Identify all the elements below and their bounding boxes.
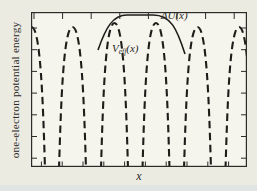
veff-curve-label: Veff(x) — [112, 42, 138, 56]
figure-page: one-electron potential energy ΔU(x) Veff… — [0, 0, 257, 191]
y-axis-label-text: one-electron potential energy — [9, 21, 21, 158]
delta-u-curve-label: ΔU(x) — [161, 9, 188, 21]
veff-dashed-peak — [226, 27, 248, 167]
plot-svg — [31, 12, 247, 167]
veff-dashed-peak — [59, 27, 86, 167]
y-axis-label: one-electron potential energy — [0, 12, 30, 167]
veff-label-argument: (x) — [126, 42, 138, 54]
plot-frame — [32, 13, 247, 167]
veff-dashed-peak — [143, 23, 170, 167]
x-axis-label: x — [31, 169, 247, 184]
veff-dashed-peak — [184, 27, 211, 167]
veff-label-symbol: V — [112, 42, 119, 54]
veff-dashed-peak — [31, 27, 45, 167]
plot-area — [31, 12, 247, 167]
page-bottom-strip — [0, 185, 257, 191]
